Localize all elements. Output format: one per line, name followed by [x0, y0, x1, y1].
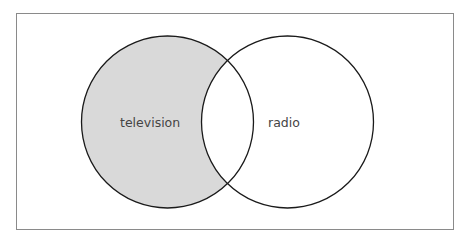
- radio-label: radio: [268, 115, 300, 130]
- television-label: television: [120, 115, 180, 130]
- venn-diagram: television radio: [0, 0, 471, 242]
